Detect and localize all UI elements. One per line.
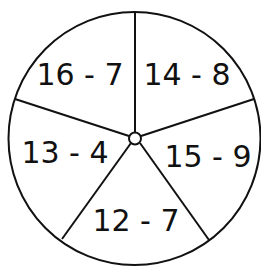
section-label-16-7: 16 - 7	[36, 60, 123, 90]
section-label-15-9: 15 - 9	[164, 142, 251, 172]
section-label-14-8: 14 - 8	[143, 60, 230, 90]
spinner-hub	[129, 133, 141, 145]
section-label-13-4: 13 - 4	[21, 138, 108, 168]
section-label-12-7: 12 - 7	[92, 206, 179, 236]
